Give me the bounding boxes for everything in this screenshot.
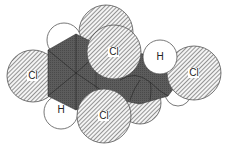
label-cl-bottom: Cl	[99, 110, 108, 121]
label-cl-top: Cl	[109, 46, 118, 57]
label-cl-right: Cl	[189, 67, 198, 78]
molecule-model: Cl Cl H Cl H Cl	[0, 0, 227, 150]
label-h-right: H	[156, 51, 163, 62]
label-h-bottom-left: H	[57, 104, 64, 115]
label-cl-left: Cl	[28, 70, 37, 81]
